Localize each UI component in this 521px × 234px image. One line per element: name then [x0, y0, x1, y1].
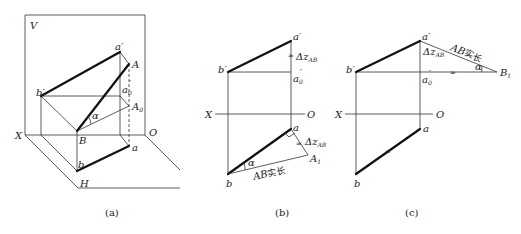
- b-prime-to-B: [41, 96, 77, 131]
- label-a-prime: a′: [422, 31, 431, 42]
- right-angle-mark: [285, 133, 295, 137]
- label-a-prime: a′: [293, 31, 302, 42]
- label-b: b: [78, 159, 84, 170]
- label-a-prime: a′: [115, 41, 124, 52]
- label-alpha: α: [92, 110, 99, 121]
- label-dz: ΔzAB: [422, 46, 445, 58]
- line-ba: [77, 146, 129, 171]
- caption-a: (a): [105, 207, 119, 218]
- equal-tick-mark: ≈: [296, 140, 302, 148]
- label-O: O: [436, 109, 444, 120]
- label-dz2: ΔzAB: [304, 136, 327, 148]
- h-plane-front: [25, 135, 180, 188]
- label-a0-prime: a0′: [293, 67, 303, 85]
- equal-tick-mark: ≈: [385, 148, 391, 156]
- h-plane-right: [145, 135, 180, 170]
- a-receding: [120, 135, 129, 146]
- label-O: O: [149, 127, 157, 138]
- b-receding: [41, 135, 77, 171]
- label-A1: A1: [309, 153, 321, 165]
- panel-a: V X O H a′ A b′ a0′ A0 α B a b (a): [14, 15, 180, 218]
- label-A0: A0: [131, 101, 143, 113]
- line-b-prime-a-prime: [228, 41, 291, 72]
- line-b-prime-a-prime: [356, 41, 420, 72]
- panel-c: ≈ ≈ a′ b′ ΔzAB AB实长 α B1 a0′ X O a b (c): [334, 31, 511, 218]
- label-alpha: α: [248, 157, 255, 168]
- label-a: a: [132, 142, 138, 153]
- label-b-prime: b′: [218, 64, 227, 75]
- B-to-A0: [77, 106, 129, 131]
- panel-b: ≈ ≈ a′ b′ ΔzAB a0′ X O a ΔzAB A1 α AB实长 …: [204, 31, 327, 218]
- projection-diagram: V X O H a′ A b′ a0′ A0 α B a b (a) ≈ ≈ a…: [0, 0, 521, 234]
- a-prime-to-A: [120, 52, 129, 64]
- label-b: b: [226, 178, 232, 189]
- a0-prime-to-A0: [120, 96, 129, 106]
- equal-tick-mark: ≈: [288, 52, 294, 60]
- label-B1: B1: [499, 67, 511, 79]
- label-alpha: α: [475, 61, 482, 72]
- label-V: V: [30, 20, 39, 31]
- label-X: X: [204, 109, 213, 120]
- v-plane: [25, 15, 145, 135]
- label-b-prime: b′: [346, 64, 355, 75]
- label-H: H: [79, 178, 89, 189]
- label-a0-prime: a0′: [122, 78, 132, 96]
- label-O: O: [307, 109, 315, 120]
- alpha-arc: [88, 116, 91, 124]
- caption-b: (b): [275, 207, 289, 218]
- label-a: a: [293, 122, 299, 133]
- label-b: b: [354, 178, 360, 189]
- caption-c: (c): [405, 207, 419, 218]
- label-X: X: [14, 130, 23, 141]
- label-A: A: [131, 59, 139, 70]
- label-a: a: [423, 123, 429, 134]
- equal-tick-mark: ≈: [450, 69, 456, 77]
- label-a0-prime: a0′: [422, 68, 432, 86]
- label-b-prime: b′: [36, 87, 45, 98]
- label-dz: ΔzAB: [295, 51, 318, 63]
- label-X: X: [334, 109, 343, 120]
- alpha-arc: [244, 163, 245, 170]
- label-B: B: [78, 135, 86, 146]
